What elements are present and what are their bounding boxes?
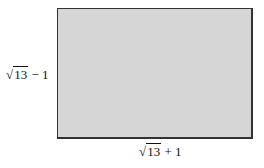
radicand: 13	[13, 66, 28, 82]
constant: 1	[42, 67, 49, 82]
height-label: √13 − 1	[6, 67, 48, 83]
constant: 1	[175, 144, 182, 159]
radicand: 13	[146, 143, 161, 159]
operator: +	[164, 144, 171, 159]
width-label: √13 + 1	[139, 144, 181, 160]
shaded-rectangle	[57, 8, 253, 139]
operator: −	[31, 67, 38, 82]
